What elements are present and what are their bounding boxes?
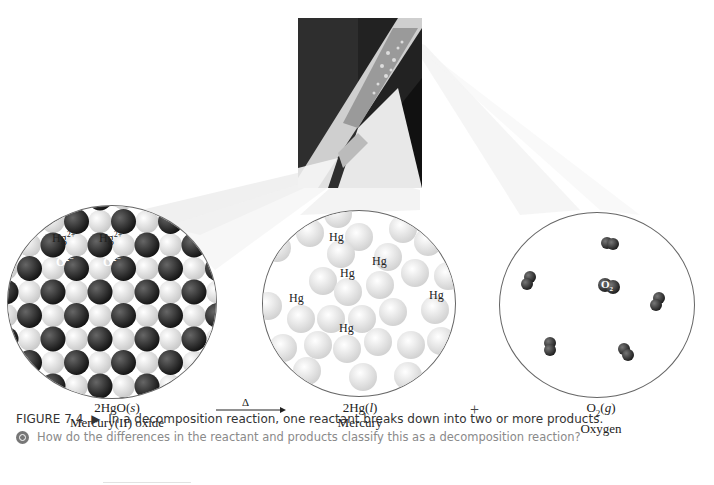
hg-atom-label: Hg — [329, 230, 344, 245]
caption-marker-icon: ▶ — [91, 412, 100, 426]
figure-question: How do the differences in the reactant a… — [16, 430, 581, 444]
o2-molecule-label: O2 — [601, 278, 613, 293]
o-ion-label-1: O2− — [56, 254, 74, 270]
hg-atom-label: Hg — [339, 321, 354, 336]
figure-number: FIGURE 7.4 — [16, 412, 83, 426]
hg-ion-label-2: Hg2+ — [99, 230, 122, 246]
o-ion-label-2: O2− — [103, 254, 121, 270]
hg-atom-label: Hg — [340, 266, 355, 281]
oxygen-molecules — [500, 213, 694, 397]
divider — [103, 482, 191, 483]
mercury-liquid-view: Hg Hg Hg Hg Hg Hg — [262, 210, 456, 397]
test-tube-photo — [298, 18, 422, 188]
question-target-icon — [16, 431, 29, 444]
hg-atom-label: Hg — [289, 291, 304, 306]
hg-atom-label: Hg — [429, 288, 444, 303]
question-text: How do the differences in the reactant a… — [37, 430, 581, 444]
hg-atom-label: Hg — [372, 254, 387, 269]
caption-text: In a decomposition reaction, one reactan… — [108, 412, 603, 426]
mercury-oxide-lattice: Hg2+ Hg2+ O2− O2− — [7, 205, 217, 399]
figure-caption: FIGURE 7.4 ▶ In a decomposition reaction… — [16, 412, 603, 426]
oxygen-gas-view: O2 — [499, 212, 695, 398]
hg-ion-label-1: Hg2+ — [52, 230, 75, 246]
